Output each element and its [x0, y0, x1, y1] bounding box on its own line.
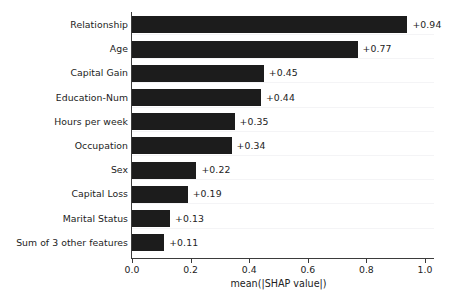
bar-value-label: +0.11: [169, 234, 198, 251]
bar-row: +0.11: [132, 231, 425, 255]
bar-value-label: +0.94: [412, 16, 441, 33]
bar-value-label: +0.44: [266, 89, 295, 106]
gridline: [132, 155, 434, 156]
x-axis-tick-label: 1.0: [418, 264, 433, 275]
gridline: [132, 58, 434, 59]
y-axis-tick-label: Age: [0, 40, 128, 57]
y-axis-tick-label: Marital Status: [0, 210, 128, 227]
gridline: [132, 228, 434, 229]
bar-value-label: +0.34: [237, 137, 266, 154]
gridline: [132, 107, 434, 108]
x-axis-tick-mark: [308, 259, 309, 263]
plot-area: +0.94+0.77+0.45+0.44+0.35+0.34+0.22+0.19…: [132, 13, 425, 258]
x-axis-tick-label: 0.0: [125, 264, 140, 275]
x-axis-tick-label: 0.2: [183, 264, 198, 275]
bar: [132, 89, 261, 106]
bar: [132, 65, 264, 82]
gridline: [132, 82, 434, 83]
y-axis-tick-label: Capital Loss: [0, 185, 128, 202]
bar: [132, 16, 407, 33]
bar: [132, 186, 188, 203]
bar: [132, 113, 235, 130]
y-axis-tick-label: Relationship: [0, 16, 128, 33]
bar: [132, 234, 164, 251]
bar-value-label: +0.35: [240, 113, 269, 130]
bar-value-label: +0.45: [269, 64, 298, 81]
y-axis-tick-label: Education-Num: [0, 89, 128, 106]
x-axis-tick-mark: [132, 259, 133, 263]
x-axis-tick-mark: [249, 259, 250, 263]
y-axis-tick-label: Sex: [0, 161, 128, 178]
x-axis-tick-label: 0.6: [300, 264, 315, 275]
y-axis-tick-label: Occupation: [0, 137, 128, 154]
bar: [132, 41, 358, 58]
x-axis-title: mean(|SHAP value|): [132, 278, 425, 289]
x-axis-tick-label: 0.4: [242, 264, 257, 275]
x-axis-tick-mark: [425, 259, 426, 263]
gridline: [132, 34, 434, 35]
y-axis-tick-label: Hours per week: [0, 113, 128, 130]
y-axis-tick-label: Capital Gain: [0, 64, 128, 81]
x-axis-spine: [131, 258, 434, 259]
bar-value-label: +0.13: [175, 210, 204, 227]
bar: [132, 137, 232, 154]
gridline: [132, 131, 434, 132]
bar: [132, 210, 170, 227]
y-axis-tick-label: Sum of 3 other features: [0, 234, 128, 251]
x-axis-tick-mark: [366, 259, 367, 263]
bar-value-label: +0.19: [193, 185, 222, 202]
shap-bar-chart: +0.94+0.77+0.45+0.44+0.35+0.34+0.22+0.19…: [0, 0, 456, 302]
gridline: [132, 179, 434, 180]
bar-value-label: +0.77: [363, 40, 392, 57]
y-axis-labels: RelationshipAgeCapital GainEducation-Num…: [0, 13, 128, 258]
x-axis-tick-mark: [191, 259, 192, 263]
bar-value-label: +0.22: [201, 161, 230, 178]
bar: [132, 162, 196, 179]
x-axis-tick-label: 0.8: [359, 264, 374, 275]
gridline: [132, 203, 434, 204]
